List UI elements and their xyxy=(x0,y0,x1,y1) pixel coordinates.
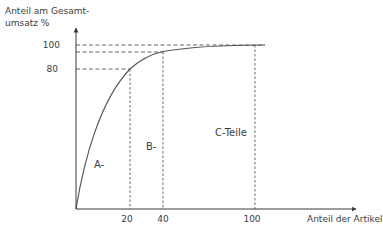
region-label-a: A- xyxy=(94,159,104,170)
region-label-b: B- xyxy=(146,141,156,152)
x-tick-20: 20 xyxy=(112,214,142,225)
y-tick-100: 100 xyxy=(30,40,60,51)
y-axis-label-line2: umsatz % xyxy=(5,18,49,29)
abc-analysis-chart xyxy=(0,0,383,233)
x-tick-100: 100 xyxy=(237,214,267,225)
y-tick-80: 80 xyxy=(28,64,58,75)
x-tick-40: 40 xyxy=(148,214,178,225)
y-axis-label-line1: Anteil am Gesamt- xyxy=(5,6,89,17)
region-label-c: C-Teile xyxy=(215,127,247,138)
x-axis-label: Anteil der Artikel xyxy=(307,214,382,225)
